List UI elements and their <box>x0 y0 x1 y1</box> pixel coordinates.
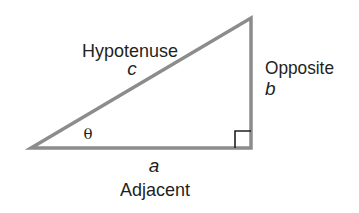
adjacent-variable: a <box>149 155 160 176</box>
opposite-variable: b <box>265 78 276 99</box>
right-angle-marker <box>235 131 251 148</box>
adjacent-label: Adjacent <box>120 179 191 200</box>
theta-angle-label: θ <box>83 125 92 143</box>
triangle-shape <box>31 18 251 148</box>
opposite-label: Opposite <box>265 57 334 78</box>
hypotenuse-variable: c <box>127 58 137 79</box>
right-triangle-diagram: Hypotenuse c Opposite b θ a Adjacent <box>0 0 359 213</box>
